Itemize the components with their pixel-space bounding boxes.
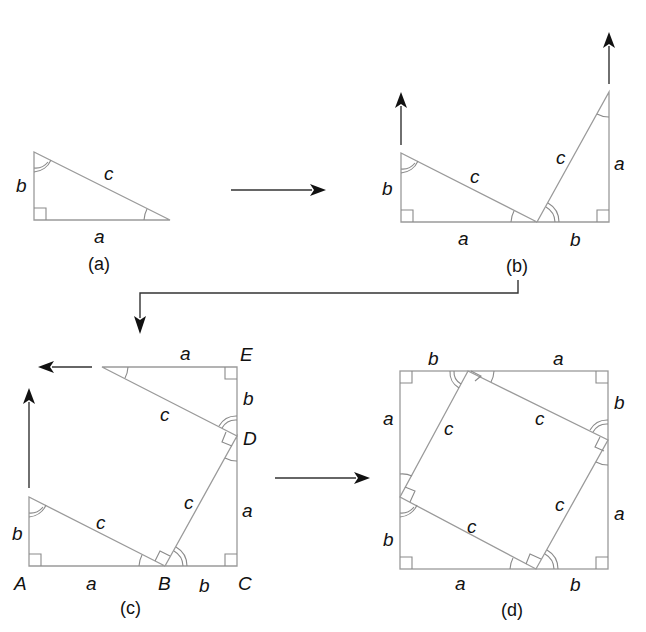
arrow-left — [38, 361, 92, 373]
angle-mark-single — [225, 458, 237, 461]
label-c: c — [444, 418, 454, 439]
label-b: b — [243, 388, 254, 409]
label-c: c — [556, 147, 566, 168]
angle-mark-double-outer — [590, 420, 608, 430]
right-angle-mark — [225, 554, 237, 566]
arrow-b-to-c — [134, 280, 518, 334]
label-c: c — [96, 512, 106, 533]
caption-d: (d) — [501, 600, 523, 620]
pythagorean-diagram: b c a (a) b c a c a b — [0, 0, 646, 632]
right-angle-mark — [400, 371, 412, 383]
triangle-c-bottom-right — [165, 436, 237, 566]
label-a: a — [242, 500, 253, 521]
angle-mark-double-inner — [174, 551, 183, 566]
arrow-up-left — [395, 92, 407, 145]
right-angle-mark — [225, 367, 237, 379]
arrow-up — [23, 388, 35, 488]
right-angle-mark — [596, 557, 608, 569]
angle-mark-double-outer — [548, 203, 559, 222]
label-b: b — [614, 392, 625, 413]
right-angle-mark — [596, 371, 608, 383]
label-a: a — [94, 226, 105, 247]
angle-mark-single — [139, 555, 142, 566]
triangle-a — [34, 152, 170, 220]
angle-mark-double-inner — [222, 420, 237, 428]
caption-c: (c) — [120, 598, 141, 618]
angle-mark-double-inner — [546, 207, 555, 222]
right-angle-mark — [597, 210, 609, 222]
label-b: b — [382, 178, 393, 199]
angle-mark-single — [400, 474, 412, 476]
label-c: c — [184, 492, 194, 513]
angle-mark-double-inner — [545, 554, 554, 569]
right-angle-mark — [401, 210, 413, 222]
right-angle-mark — [526, 554, 541, 564]
angle-mark-single — [144, 209, 147, 220]
panel-a: b c a (a) — [16, 152, 170, 274]
label-c: c — [555, 494, 565, 515]
label-b: b — [428, 348, 439, 369]
point-a: A — [13, 573, 27, 594]
triangle-c-top — [102, 367, 237, 436]
angle-mark-single — [510, 558, 513, 569]
label-c: c — [535, 408, 545, 429]
angle-mark-single — [596, 462, 608, 465]
right-angle-mark-b — [155, 551, 170, 561]
label-c: c — [104, 163, 114, 184]
angle-mark-double-outer — [547, 550, 558, 569]
label-a: a — [458, 228, 469, 249]
angle-mark-double-outer — [219, 416, 237, 426]
caption-b: (b) — [506, 256, 528, 276]
angle-mark-double-outer — [176, 547, 187, 566]
right-angle-mark — [34, 208, 46, 220]
inner-square — [400, 371, 608, 569]
panel-d: b a a b b a a b c c c c (d) — [383, 348, 625, 620]
label-c: c — [160, 404, 170, 425]
triangle-b-right — [537, 92, 609, 222]
label-b: b — [570, 229, 581, 250]
angle-mark-double-inner — [454, 371, 461, 384]
point-c: C — [238, 573, 252, 594]
point-d: D — [243, 428, 257, 449]
label-a: a — [553, 348, 564, 369]
right-angle-mark — [400, 557, 412, 569]
arrow-c-to-d — [275, 472, 370, 484]
point-e: E — [240, 344, 253, 365]
label-c: c — [467, 516, 477, 537]
label-a: a — [383, 408, 394, 429]
label-b: b — [383, 529, 394, 550]
outer-square — [400, 371, 608, 569]
panel-b: b c a c a b (b) — [382, 32, 625, 276]
triangle-b-left — [401, 153, 537, 222]
angle-mark-single — [125, 367, 128, 378]
panel-c: a E b c D c a b c A a B b C (c) — [12, 343, 257, 618]
label-b: b — [570, 574, 581, 595]
point-b: B — [158, 573, 171, 594]
angle-mark-single — [491, 371, 494, 382]
label-b: b — [199, 575, 210, 596]
label-a: a — [614, 153, 625, 174]
angle-mark-double-inner — [593, 424, 608, 432]
caption-a: (a) — [88, 254, 110, 274]
arrow-a-to-b — [231, 184, 326, 196]
label-b: b — [12, 523, 23, 544]
label-a: a — [614, 503, 625, 524]
angle-mark-single — [511, 211, 514, 222]
angle-mark-single — [597, 114, 609, 117]
right-angle-mark-d — [222, 432, 232, 446]
right-angle-mark — [29, 554, 41, 566]
arrow-up-right — [603, 32, 615, 84]
label-a: a — [180, 343, 191, 364]
label-a: a — [86, 573, 97, 594]
label-a: a — [455, 573, 466, 594]
label-b: b — [16, 175, 27, 196]
label-c: c — [470, 166, 480, 187]
